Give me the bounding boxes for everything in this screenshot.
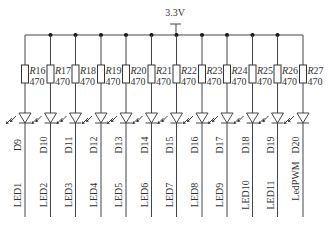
resistor-value-label: 470 bbox=[232, 76, 247, 87]
resistor-ref-label: R23 bbox=[206, 65, 223, 76]
resistor-value-label: 470 bbox=[257, 76, 272, 87]
resistor-ref-label: R26 bbox=[281, 65, 298, 76]
resistor-value-label: 470 bbox=[80, 76, 95, 87]
resistor-r26 bbox=[274, 65, 281, 83]
diode-ref-label: D12 bbox=[88, 136, 99, 153]
resistor-r18 bbox=[72, 65, 79, 83]
led-d20 bbox=[297, 113, 309, 123]
led-d11 bbox=[70, 113, 82, 123]
resistor-r21 bbox=[148, 65, 155, 83]
led-d13 bbox=[120, 113, 132, 123]
resistor-value-label: 470 bbox=[55, 76, 70, 87]
resistor-value-label: 470 bbox=[131, 76, 146, 87]
led-d18 bbox=[247, 113, 259, 123]
resistor-value-label: 470 bbox=[308, 76, 323, 87]
net-label: LedPWM bbox=[290, 161, 301, 201]
net-label: LED5 bbox=[113, 183, 124, 207]
net-label: LED2 bbox=[38, 183, 49, 207]
resistor-r25 bbox=[249, 65, 256, 83]
diode-ref-label: D9 bbox=[12, 139, 23, 151]
resistor-r27 bbox=[300, 65, 307, 83]
resistor-ref-label: R18 bbox=[79, 65, 96, 76]
led-d19 bbox=[272, 113, 284, 123]
net-label: LED7 bbox=[164, 183, 175, 207]
resistor-r24 bbox=[224, 65, 231, 83]
resistor-ref-label: R20 bbox=[130, 65, 147, 76]
resistor-ref-label: R24 bbox=[231, 65, 248, 76]
led-d16 bbox=[196, 113, 208, 123]
diode-ref-label: D13 bbox=[113, 136, 124, 153]
led-d14 bbox=[146, 113, 158, 123]
resistor-ref-label: R19 bbox=[105, 65, 122, 76]
diode-ref-label: D19 bbox=[265, 136, 276, 153]
supply-label: 3.3V bbox=[165, 7, 186, 18]
resistor-value-label: 470 bbox=[106, 76, 121, 87]
resistor-ref-label: R17 bbox=[54, 65, 71, 76]
led-d17 bbox=[221, 113, 233, 123]
diode-ref-label: D11 bbox=[63, 137, 74, 154]
resistor-ref-label: R16 bbox=[29, 65, 46, 76]
net-label: LED4 bbox=[88, 183, 99, 207]
resistor-value-label: 470 bbox=[156, 76, 171, 87]
resistor-r22 bbox=[173, 65, 180, 83]
led-d9 bbox=[19, 113, 31, 123]
resistor-r19 bbox=[98, 65, 105, 83]
diode-ref-label: D16 bbox=[189, 136, 200, 153]
resistor-ref-label: R21 bbox=[155, 65, 172, 76]
diode-ref-label: D18 bbox=[240, 136, 251, 153]
diode-ref-label: D10 bbox=[38, 136, 49, 153]
resistor-ref-label: R22 bbox=[180, 65, 197, 76]
diode-ref-label: D15 bbox=[164, 136, 175, 153]
net-label: LED11 bbox=[265, 180, 276, 209]
schematic-drawing: 3.3V R16470D9LED1R17470D10LED2R18470D11L… bbox=[0, 0, 331, 230]
net-label: LED1 bbox=[12, 183, 23, 207]
diode-ref-label: D17 bbox=[214, 136, 225, 153]
resistor-r16 bbox=[22, 65, 29, 83]
net-label: LED6 bbox=[139, 183, 150, 207]
led-channels: R16470D9LED1R17470D10LED2R18470D11LED3R1… bbox=[6, 33, 324, 217]
led-d12 bbox=[95, 113, 107, 123]
led-d10 bbox=[45, 113, 57, 123]
resistor-ref-label: R25 bbox=[256, 65, 273, 76]
net-label: LED10 bbox=[240, 180, 251, 209]
resistor-value-label: 470 bbox=[181, 76, 196, 87]
resistor-ref-label: R27 bbox=[307, 65, 324, 76]
resistor-value-label: 470 bbox=[282, 76, 297, 87]
diode-ref-label: D14 bbox=[139, 136, 150, 153]
led-driver-schematic: 3.3V R16470D9LED1R17470D10LED2R18470D11L… bbox=[0, 0, 331, 230]
resistor-r17 bbox=[47, 65, 54, 83]
resistor-r20 bbox=[123, 65, 130, 83]
resistor-value-label: 470 bbox=[207, 76, 222, 87]
led-d15 bbox=[171, 113, 183, 123]
net-label: LED9 bbox=[214, 183, 225, 207]
diode-ref-label: D20 bbox=[290, 136, 301, 153]
resistor-value-label: 470 bbox=[30, 76, 45, 87]
resistor-r23 bbox=[199, 65, 206, 83]
net-label: LED8 bbox=[189, 183, 200, 207]
net-label: LED3 bbox=[63, 183, 74, 207]
